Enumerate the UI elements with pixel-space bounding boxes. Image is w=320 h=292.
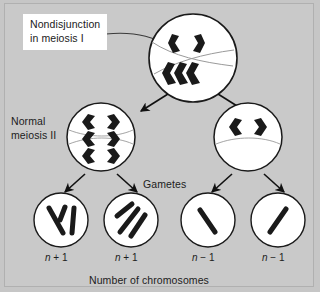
- gamete-cell-1: [34, 193, 88, 247]
- gamete-4-ploidy-label: n − 1: [262, 252, 285, 263]
- arrow-to-gamete-1: [65, 174, 85, 192]
- figure-nondisjunction-meiosis: Nondisjunction in meiosis I Normal meios…: [0, 0, 320, 292]
- meiosis-i-cell: [149, 14, 237, 102]
- callout-label-nondisjunction: Nondisjunction in meiosis I: [23, 14, 107, 50]
- label-gametes: Gametes: [143, 178, 186, 191]
- arrow-parent-to-left: [141, 94, 168, 111]
- secondary-cell-left: [67, 103, 135, 171]
- arrow-to-gamete-2: [117, 174, 137, 192]
- gamete-3-ploidy-label: n − 1: [192, 252, 215, 263]
- gamete-cell-4: [251, 193, 305, 247]
- secondary-cell-right: [214, 103, 282, 171]
- gamete-1-ploidy-label: n + 1: [45, 252, 68, 263]
- arrow-to-gamete-3: [212, 174, 232, 192]
- label-normal-meiosis-ii: Normal meiosis II: [11, 115, 56, 142]
- gamete-cell-2: [104, 193, 158, 247]
- figure-plate: Nondisjunction in meiosis I Normal meios…: [4, 3, 314, 287]
- gamete-cell-3: [181, 193, 235, 247]
- caption-number-of-chromosomes: Number of chromosomes: [89, 274, 209, 287]
- arrow-to-gamete-4: [264, 174, 284, 192]
- gamete-2-ploidy-label: n + 1: [115, 252, 138, 263]
